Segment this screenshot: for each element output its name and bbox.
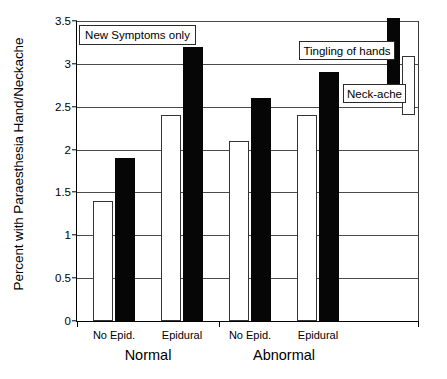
bar-neckache-normal-epidural [161, 115, 181, 321]
gridline-3 [77, 64, 419, 65]
y-tick-label-2: 2 [65, 144, 71, 156]
x-sub-label-normal-no-epid: No Epid. [93, 329, 135, 341]
bar-chart-figure: Percent with Paraesthesia Hand/Neckache … [0, 0, 447, 379]
y-axis-title: Percent with Paraesthesia Hand/Neckache [7, 0, 29, 334]
plot-right-edge [418, 21, 419, 321]
y-tick-label-1-5: 1.5 [55, 186, 71, 198]
x-sub-label-abnormal-epidural: Epidural [298, 329, 338, 341]
gridline-3-5 [77, 21, 419, 22]
x-group-label-normal: Normal [125, 347, 172, 363]
legend-label-neck-ache: Neck-ache [343, 84, 406, 103]
x-tick-mark-right [418, 321, 419, 327]
x-tick-mark-left [77, 321, 78, 327]
y-tick-label-0: 0 [65, 315, 71, 327]
x-group-label-abnormal: Abnormal [253, 347, 315, 363]
y-tick-label-2-5: 2.5 [55, 101, 71, 113]
legend-label-tingling-of-hands: Tingling of hands [299, 41, 395, 60]
y-tick-label-3-5: 3.5 [55, 15, 71, 27]
bar-neckache-normal-no-epid [93, 201, 113, 321]
x-tick-mark-mid [219, 321, 220, 327]
plot-area: 0 0.5 1 1.5 2 2.5 3 3.5 [76, 21, 419, 322]
y-tick-label-0-5: 0.5 [55, 272, 71, 284]
bar-tingling-abnormal-no-epid [251, 98, 271, 321]
y-tick-label-1: 1 [65, 229, 71, 241]
y-tick-label-3: 3 [65, 58, 71, 70]
bar-tingling-normal-epidural [183, 47, 203, 321]
x-sub-label-normal-epidural: Epidural [162, 329, 202, 341]
x-sub-label-abnormal-no-epid: No Epid. [229, 329, 271, 341]
bar-neckache-abnormal-epidural [297, 115, 317, 321]
bar-neckache-abnormal-no-epid [229, 141, 249, 321]
gridline-2-5 [77, 107, 419, 108]
title-callout: New Symptoms only [79, 25, 196, 45]
plot-inner: 0 0.5 1 1.5 2 2.5 3 3.5 [77, 21, 419, 321]
bar-tingling-normal-no-epid [115, 158, 135, 321]
bar-tingling-abnormal-epidural [319, 72, 339, 321]
